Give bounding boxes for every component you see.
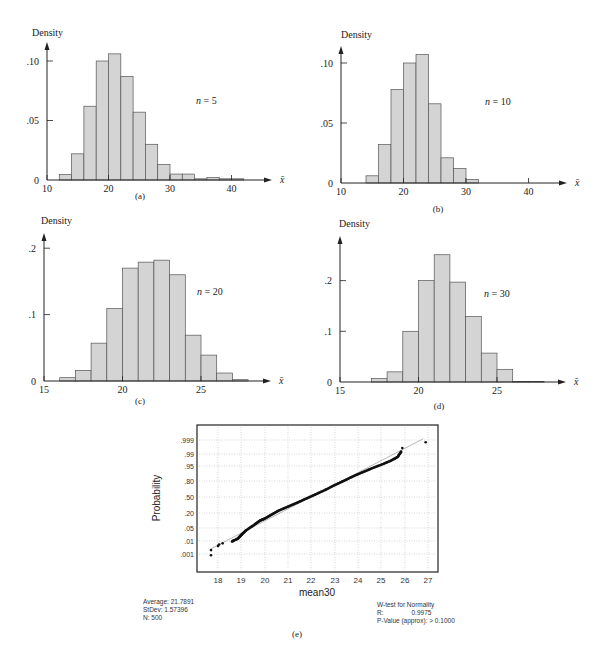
histogram-bar: [387, 372, 403, 382]
y-tick-label: 0: [31, 376, 36, 387]
y-tick-label: .05: [27, 115, 40, 126]
x-tick-label: 25: [492, 385, 502, 396]
histogram-bar: [404, 63, 417, 183]
x-tick-label: 20: [414, 385, 424, 396]
y-tick-label: .001: [180, 551, 194, 558]
histogram-bar: [434, 255, 450, 382]
data-point: [424, 441, 427, 444]
y-tick-label: .99: [184, 451, 194, 458]
x-tick-label: 26: [401, 576, 410, 585]
histogram-bar: [121, 76, 133, 180]
y-tick-label: .10: [321, 58, 334, 69]
wtest-r: R:0.9975: [377, 609, 455, 617]
histogram-bar: [158, 165, 170, 180]
histogram-bar: [217, 373, 233, 381]
normality-test: W-test for Normality R:0.9975 P-Value (a…: [377, 601, 455, 625]
figure-canvas: 102030400.05.10Densityx̄n = 5(a) 1020304…: [0, 0, 595, 663]
x-tick-label: 23: [331, 576, 340, 585]
panel-label: (b): [433, 204, 444, 214]
histogram-bar: [145, 144, 157, 180]
stat-n: N: 500: [143, 614, 194, 622]
y-tick-label: 0: [34, 175, 39, 186]
histogram-bar: [138, 262, 154, 381]
x-tick-label: 30: [165, 183, 175, 194]
sample-size-annotation: n = 10: [485, 96, 511, 107]
y-axis-arrow-icon: [339, 46, 344, 54]
wtest-title: W-test for Normality: [377, 601, 455, 609]
panel-label: (e): [292, 629, 302, 639]
x-tick-label: 25: [196, 384, 206, 395]
x-tick-label: 24: [354, 576, 363, 585]
histogram-bar: [123, 268, 139, 381]
x-axis-label: x̄: [279, 174, 285, 185]
y-tick-label: .2: [29, 243, 37, 254]
x-tick-label: 15: [335, 385, 345, 396]
y-tick-label: .50: [184, 494, 194, 501]
y-tick-label: 0: [327, 377, 332, 388]
x-tick-label: 40: [227, 183, 237, 194]
y-tick-label: .999: [180, 437, 194, 444]
y-tick-label: .05: [321, 118, 334, 129]
histogram-bar: [379, 145, 392, 183]
histogram-n30: 1520250.1.2Densityx̄n = 30(d): [325, 218, 580, 411]
x-tick-label: 20: [104, 183, 114, 194]
x-axis-arrow-icon: [559, 181, 567, 186]
histogram-bar: [391, 89, 404, 183]
x-tick-label: 20: [261, 576, 270, 585]
x-axis-label: x̄: [278, 375, 284, 386]
data-point: [401, 447, 404, 450]
x-tick-label: 19: [237, 576, 246, 585]
histogram-bar: [403, 331, 419, 382]
y-axis-label: Probability: [151, 475, 162, 522]
histogram-bar: [466, 317, 482, 382]
histogram-bar: [454, 169, 467, 183]
histogram-bar: [466, 179, 479, 183]
histogram-n5: 102030400.05.10Densityx̄n = 5(a): [27, 27, 286, 201]
x-tick-label: 10: [336, 186, 346, 197]
histogram-bar: [96, 61, 108, 180]
histogram-bar: [170, 174, 182, 180]
histogram-bar: [170, 275, 186, 381]
y-axis-arrow-icon: [45, 42, 50, 50]
histogram-bar: [72, 154, 84, 180]
x-tick-label: 30: [461, 186, 471, 197]
histogram-bar: [201, 355, 217, 381]
sample-size-annotation: n = 20: [197, 286, 223, 297]
y-axis-arrow-icon: [338, 236, 343, 244]
data-point: [218, 543, 221, 546]
x-tick-label: 40: [524, 186, 534, 197]
y-tick-label: .80: [184, 478, 194, 485]
data-point: [400, 450, 403, 453]
x-tick-label: 20: [399, 186, 409, 197]
x-axis-label: mean30: [299, 587, 336, 598]
panel-label: (a): [135, 191, 145, 201]
y-tick-label: .1: [29, 309, 37, 320]
histogram-bar: [91, 343, 107, 381]
histogram-bar: [441, 158, 454, 183]
y-tick-label: .20: [184, 510, 194, 517]
x-tick-label: 20: [118, 384, 128, 395]
data-point: [210, 554, 213, 557]
x-axis-arrow-icon: [558, 380, 566, 385]
histogram-bar: [497, 369, 513, 382]
histogram-bar: [133, 112, 145, 180]
histogram-bar: [371, 378, 387, 382]
x-tick-label: 22: [307, 576, 316, 585]
y-axis-arrow-icon: [42, 233, 47, 241]
wtest-r-label: R:: [377, 609, 384, 616]
data-point: [210, 549, 213, 552]
x-tick-label: 18: [214, 576, 223, 585]
y-tick-label: .05: [184, 525, 194, 532]
data-point: [221, 542, 224, 545]
histogram-bar: [366, 176, 379, 183]
x-axis-label: x̄: [574, 177, 580, 188]
y-axis-label: Density: [339, 218, 370, 229]
histogram-bar: [75, 370, 91, 381]
y-tick-label: .2: [325, 275, 333, 286]
histogram-bar: [154, 260, 170, 381]
x-axis-arrow-icon: [263, 379, 271, 384]
y-tick-label: .10: [27, 56, 40, 67]
x-tick-label: 21: [284, 576, 293, 585]
summary-stats: Average: 21.7891 StDev: 1.57396 N: 500: [143, 598, 194, 622]
wtest-pvalue: P-Value (approx): > 0.1000: [377, 617, 455, 625]
